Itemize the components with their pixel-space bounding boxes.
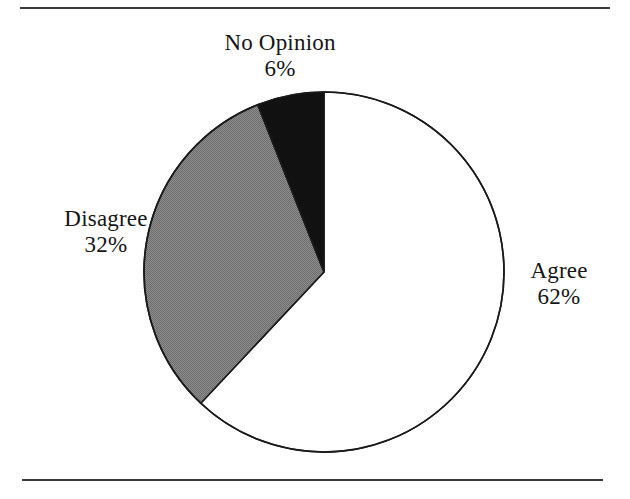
bottom-divider-rule: [22, 479, 603, 481]
pie-label-no-opinion-name: No Opinion: [178, 30, 382, 56]
pie-label-disagree: Disagree 32%: [18, 206, 194, 258]
pie-label-no-opinion: No Opinion 6%: [178, 30, 382, 82]
pie-label-no-opinion-percent: 6%: [178, 56, 382, 82]
pie-label-disagree-name: Disagree: [18, 206, 194, 232]
pie-label-agree-percent: 62%: [500, 284, 618, 310]
pie-chart-figure: No Opinion 6% Disagree 32% Agree 62%: [0, 0, 630, 499]
pie-label-agree: Agree 62%: [500, 258, 618, 310]
pie-label-disagree-percent: 32%: [18, 232, 194, 258]
pie-label-agree-name: Agree: [500, 258, 618, 284]
